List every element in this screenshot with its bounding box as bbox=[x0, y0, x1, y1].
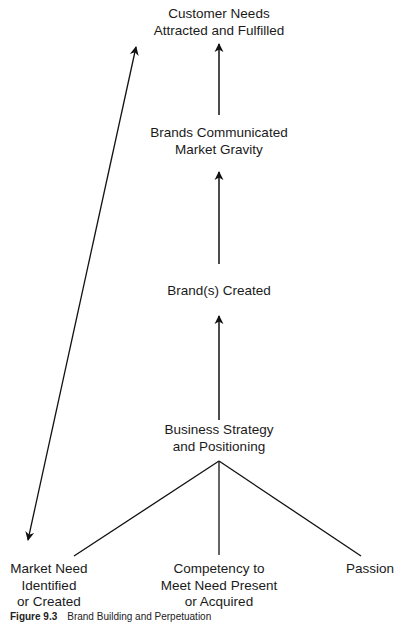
node-market-need: Market Need Identified or Created bbox=[0, 561, 98, 611]
node-business-strategy: Business Strategy and Positioning bbox=[130, 422, 308, 455]
node-line: Identified bbox=[0, 578, 98, 595]
figure-label: Figure 9.3 bbox=[10, 611, 57, 622]
node-line: Market Gravity bbox=[130, 142, 308, 159]
node-brands-created: Brand(s) Created bbox=[130, 283, 308, 300]
node-line: Attracted and Fulfilled bbox=[130, 23, 308, 40]
node-brands-communicated: Brands Communicated Market Gravity bbox=[130, 125, 308, 158]
figure-title: Brand Building and Perpetuation bbox=[67, 611, 211, 622]
node-line: Passion bbox=[335, 561, 405, 578]
node-line: Business Strategy bbox=[130, 422, 308, 439]
node-line: or Created bbox=[0, 594, 98, 611]
node-line: and Positioning bbox=[130, 439, 308, 456]
line-strategy-to-market-need bbox=[74, 461, 219, 556]
node-competency: Competency to Meet Need Present or Acqui… bbox=[150, 561, 288, 611]
node-customer-needs: Customer Needs Attracted and Fulfilled bbox=[130, 6, 308, 39]
node-passion: Passion bbox=[335, 561, 405, 578]
node-line: Meet Need Present bbox=[150, 578, 288, 595]
node-line: Brands Communicated bbox=[130, 125, 308, 142]
node-line: Customer Needs bbox=[130, 6, 308, 23]
double-arrow-market-need-customer-needs bbox=[28, 47, 136, 540]
line-strategy-to-passion bbox=[219, 461, 361, 556]
node-line: Brand(s) Created bbox=[130, 283, 308, 300]
node-line: Competency to bbox=[150, 561, 288, 578]
node-line: Market Need bbox=[0, 561, 98, 578]
figure-caption: Figure 9.3Brand Building and Perpetuatio… bbox=[10, 611, 211, 622]
node-line: or Acquired bbox=[150, 594, 288, 611]
